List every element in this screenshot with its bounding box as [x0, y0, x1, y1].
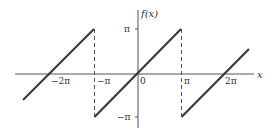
y-tick-label-neg-pi: −π — [117, 112, 131, 122]
y-axis-label: f(x) — [140, 8, 158, 19]
x-tick-label-zero: 0 — [140, 76, 146, 86]
x-tick-label-neg-pi: −π — [97, 76, 111, 86]
x-tick-label-2pi: 2π — [225, 76, 237, 86]
x-tick-label-pi: π — [184, 76, 190, 86]
curve-segment-left — [23, 29, 94, 100]
sawtooth-plot: f(x) x −2π −π 0 π 2π π −π — [0, 0, 276, 135]
y-tick-label-pi: π — [124, 24, 130, 34]
x-tick-label-neg-2pi: −2π — [51, 76, 70, 86]
x-axis-label: x — [257, 69, 263, 80]
curve-segment-right — [182, 49, 250, 117]
